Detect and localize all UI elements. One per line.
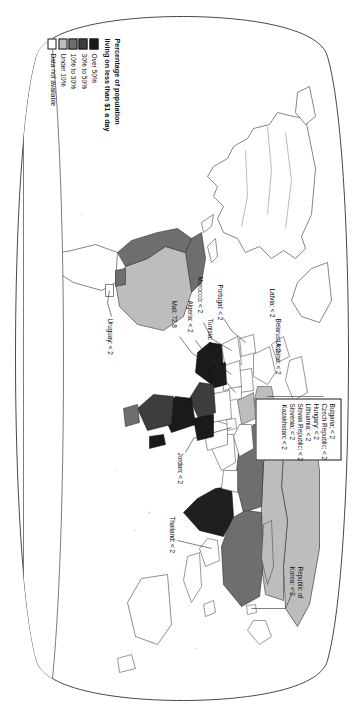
boxed-country-list: Bulgaria: < 2 Czech Republic: < 2 Hungar… [288, 403, 335, 460]
legend-swatch-under-10 [58, 38, 67, 49]
legend-entries: Over 50% 30% to 50% 10% to 30% Under 10% [47, 38, 98, 188]
boxed-country-callout: Bulgaria: < 2 Czech Republic: < 2 Hungar… [255, 398, 341, 460]
callout-bulgaria: Bulgaria: < 2 [328, 403, 335, 460]
region-paraguay [115, 268, 125, 286]
callout-label-republic-of-korea-line1: Republic of [296, 566, 303, 597]
callout-label-mali: Mali: 72.8 [170, 300, 177, 327]
map-legend: Percentage of population living on less … [47, 38, 120, 188]
legend-entry-10-to-30: 10% to 30% [68, 38, 77, 188]
legend-label-data-not-available: Data not available [48, 53, 56, 106]
callout-slovak-republic: Slovak Republic: < 2 [296, 403, 303, 460]
callout-label-republic-of-korea-line2: Korea: < 2 [288, 566, 295, 595]
legend-label-30-to-50: 30% to 50% [79, 53, 87, 89]
world-map-figure: Bulgaria: < 2 Czech Republic: < 2 Hungar… [0, 0, 363, 716]
callout-lithuania: Lithuania: < 2 [304, 403, 311, 460]
legend-entry-under-10: Under 10% [58, 38, 67, 188]
callout-hungary: Hungary: < 2 [312, 403, 319, 460]
callout-label-tunisia: Tunisia: < 2 [206, 318, 213, 350]
callout-label-uruguay: Uruguay: < 2 [106, 318, 113, 354]
region-republic-of-korea [246, 604, 256, 614]
legend-label-10-to-30: 10% to 30% [69, 53, 77, 89]
callout-label-latvia: Latvia: < 2 [268, 288, 275, 317]
figure-page: Bulgaria: < 2 Czech Republic: < 2 Hungar… [0, 0, 363, 716]
callout-czech-republic: Czech Republic: < 2 [320, 403, 327, 460]
callout-label-thailand: Thailand: < 2 [168, 516, 175, 552]
rotated-figure-wrapper: Bulgaria: < 2 Czech Republic: < 2 Hungar… [0, 0, 363, 716]
region-pakistan [221, 470, 237, 492]
legend-swatch-10-to-30 [68, 38, 77, 49]
legend-title-line2: living on less than $1 a day [102, 38, 111, 188]
callout-label-ukraine: Ukraine: < 2 [274, 340, 281, 374]
legend-entry-over-50: Over 50% [89, 38, 98, 188]
legend-swatch-data-not-available [47, 38, 56, 49]
callout-label-portugal: Portugal: < 2 [216, 284, 223, 320]
legend-swatch-30-to-50 [78, 38, 87, 49]
legend-entry-data-not-available: Data not available [47, 38, 56, 188]
legend-entry-30-to-50: 30% to 50% [78, 38, 87, 188]
legend-label-under-10: Under 10% [58, 53, 66, 86]
region-jordan [226, 418, 236, 430]
legend-title-line1: Percentage of population [111, 38, 120, 188]
callout-label-kazakhstan: Kazakhstan: < 2 [280, 404, 287, 449]
legend-swatch-over-50 [89, 38, 98, 49]
legend-label-over-50: Over 50% [90, 53, 98, 82]
callout-label-algeria: Algeria: < 2 [186, 300, 193, 332]
callout-slovenia: Slovenia: < 2 [288, 403, 295, 460]
callout-label-morocco: Morocco: < 2 [196, 276, 203, 313]
callout-label-jordan: Jordan: < 2 [176, 452, 183, 484]
